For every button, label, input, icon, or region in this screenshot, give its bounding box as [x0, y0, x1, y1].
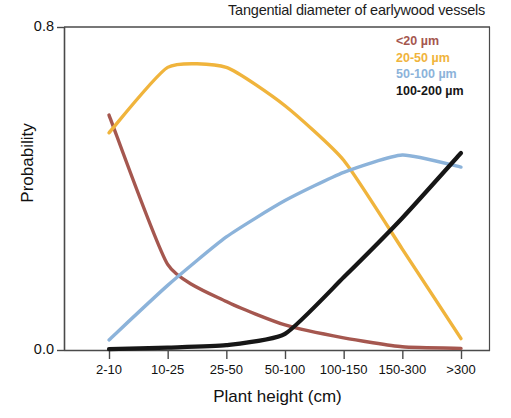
- plot-area: [0, 0, 511, 418]
- x-axis-ticks: [110, 351, 462, 359]
- axis-lines: [57, 27, 490, 351]
- chart-figure: Tangential diameter of earlywood vessels…: [0, 0, 511, 418]
- series-line-2: [109, 155, 461, 340]
- series-line-0: [109, 115, 461, 348]
- data-series-group: [109, 64, 461, 349]
